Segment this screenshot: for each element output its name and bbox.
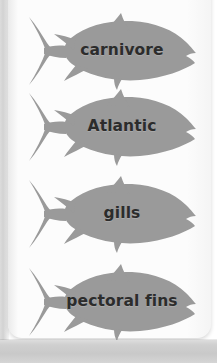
fish-item[interactable]: gills bbox=[14, 171, 206, 255]
fish-label-text: Atlantic bbox=[70, 84, 174, 168]
fish-item[interactable]: Atlantic bbox=[14, 84, 206, 168]
fish-label-list: carnivore Atlantic bbox=[0, 0, 217, 363]
fish-item[interactable]: carnivore bbox=[14, 8, 206, 92]
fish-label-text: pectoral fins bbox=[54, 259, 190, 343]
desk-surface-below-page bbox=[0, 340, 217, 363]
fish-label-text: gills bbox=[72, 171, 172, 255]
fish-label-text: carnivore bbox=[66, 8, 178, 92]
fish-item[interactable]: pectoral fins bbox=[14, 259, 206, 343]
scanned-page: carnivore Atlantic bbox=[0, 0, 217, 363]
